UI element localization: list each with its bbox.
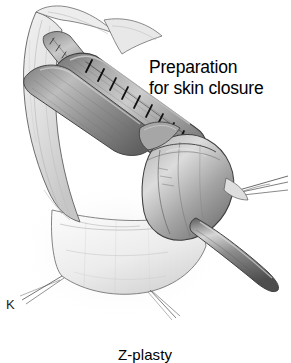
figure-caption: Z-plasty (0, 346, 290, 363)
panel-letter-label: K (6, 298, 15, 312)
annotation-caption: Preparation for skin closure (149, 57, 291, 99)
annotation-line-2: for skin closure (149, 78, 291, 99)
annotation-line-1: Preparation (149, 57, 291, 78)
